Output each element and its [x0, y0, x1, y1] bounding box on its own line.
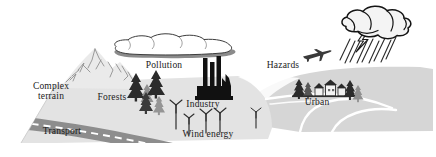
label-forests: Forests [88, 92, 136, 103]
label-transport: Transport [32, 126, 92, 137]
smokestack-3 [217, 56, 222, 86]
label-pollution: Pollution [136, 60, 192, 71]
label-wind-energy: Wind energy [172, 129, 244, 140]
smokestack-1 [203, 58, 208, 86]
label-complex-terrain: Complex terrain [26, 81, 76, 101]
storm-cloud-group [340, 6, 411, 63]
pollution-cloud-body [115, 34, 232, 55]
label-industry: Industry [177, 99, 229, 110]
label-complex-terrain-line2: terrain [26, 91, 76, 101]
label-complex-terrain-line1: Complex [26, 81, 76, 91]
label-urban: Urban [295, 97, 339, 108]
pollution-cloud [114, 34, 235, 58]
smokestack-2 [210, 62, 215, 86]
label-hazards: Hazards [256, 60, 310, 71]
storm-cloud-body [342, 6, 411, 38]
rain-streaks [340, 37, 396, 63]
landscape-diagram: Complex terrain Forests Transport Pollut… [0, 0, 436, 157]
